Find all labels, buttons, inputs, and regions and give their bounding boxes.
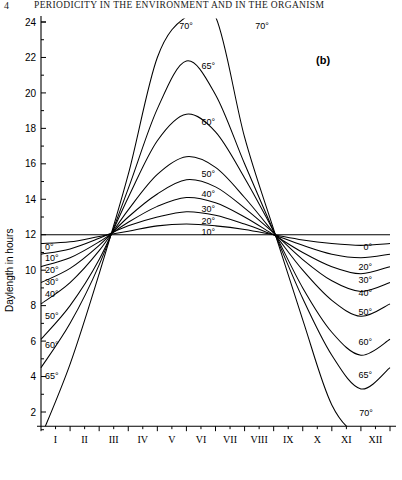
curve-label-left-0: 0° (45, 242, 54, 252)
y-tick-label: 8 (30, 300, 36, 311)
y-tick-label: 22 (25, 52, 37, 63)
page-folio: 4 (4, 0, 9, 11)
curve-label-left-20: 20° (45, 265, 59, 275)
curve-label-peak-40: 40° (201, 189, 215, 199)
x-tick-label: I (54, 434, 57, 445)
curve-label-top-left-70: 70° (179, 21, 193, 31)
curve-label-right-50: 50° (358, 307, 372, 317)
x-tick-label: VIII (251, 434, 268, 445)
daylength-curve (41, 197, 390, 273)
curve-label-peak-10: 10° (201, 227, 215, 237)
y-tick-label: 10 (25, 265, 37, 276)
curve-label-right-65: 65° (358, 370, 372, 380)
curve-label-left-60: 60° (45, 340, 59, 350)
curve-label-top-right-70: 70° (255, 21, 269, 31)
y-tick-label: 18 (25, 123, 37, 134)
x-tick-label: XI (341, 434, 352, 445)
curve-label-left-10: 10° (45, 253, 59, 263)
curve-label-right-60: 60° (358, 337, 372, 347)
daylength-curve (41, 180, 390, 292)
y-tick-label: 20 (25, 88, 37, 99)
curve-label-left-65: 65° (45, 371, 59, 381)
x-tick-label: IV (138, 434, 149, 445)
curve-label-right-30: 30° (358, 275, 372, 285)
curve-label-peak-30: 30° (201, 204, 215, 214)
y-axis-title: Daylength in hours (4, 229, 15, 312)
x-tick-label: IX (283, 434, 294, 445)
x-tick-label: XII (369, 434, 383, 445)
curve-layer (41, 12, 390, 439)
curve-label-left-50: 50° (45, 311, 59, 321)
x-tick-label: III (109, 434, 119, 445)
y-tick-label: 4 (30, 371, 36, 382)
daylength-chart: 24681012141618202224IIIIIIIVVVIVIIVIIIIX… (0, 12, 402, 480)
curve-label-right-40: 40° (358, 288, 372, 298)
curve-label-bottom-70: 70° (359, 408, 373, 418)
y-tick-label: 6 (30, 336, 36, 347)
curve-label-peak-65: 65° (201, 61, 215, 71)
running-head-title: PERIODICITY IN THE ENVIRONMENT AND IN TH… (34, 0, 324, 10)
curve-label-right-20: 20° (358, 262, 372, 272)
panel-label: (b) (316, 54, 330, 66)
y-tick-label: 12 (25, 229, 37, 240)
figure-panel-b: 4 PERIODICITY IN THE ENVIRONMENT AND IN … (0, 0, 402, 480)
y-tick-label: 24 (25, 17, 37, 28)
x-tick-label: VII (223, 434, 237, 445)
x-tick-label: V (168, 434, 176, 445)
curve-label-peak-50: 50° (201, 169, 215, 179)
daylength-curve (41, 61, 390, 389)
curve-label-layer: 0°10°20°30°40°50°60°65°0°20°30°40°50°60°… (45, 21, 373, 418)
y-tick-label: 16 (25, 158, 37, 169)
curve-label-left-40: 40° (45, 289, 59, 299)
curve-label-peak-60: 60° (201, 117, 215, 127)
curve-label-left-30: 30° (45, 277, 59, 287)
curve-label-peak-20: 20° (201, 216, 215, 226)
x-tick-label: VI (196, 434, 207, 445)
y-tick-label: 2 (30, 407, 36, 418)
y-tick-label: 14 (25, 194, 37, 205)
x-tick-label: X (314, 434, 322, 445)
curve-label-right-0: 0° (363, 242, 372, 252)
x-tick-label: II (81, 434, 88, 445)
